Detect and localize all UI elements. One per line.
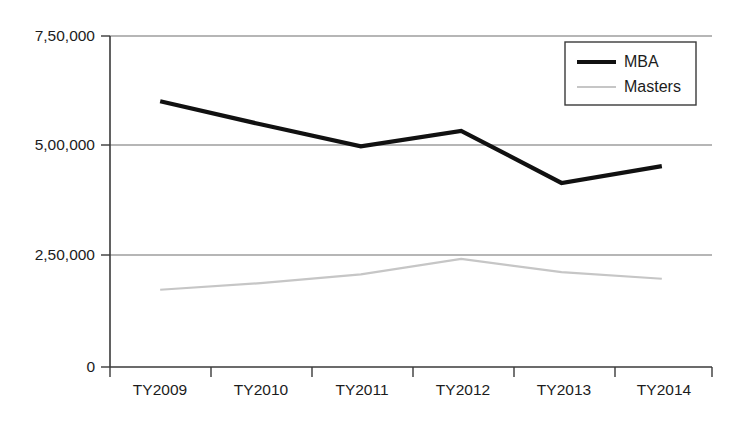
x-tick-label-ty2009: TY2009 xyxy=(133,381,187,398)
chart-page: 7,50,000 5,00,000 2,50,000 0 TY2009 TY20… xyxy=(0,0,734,433)
y-tick-label-0: 0 xyxy=(86,358,95,375)
y-tick-label-500000: 5,00,000 xyxy=(35,136,96,153)
x-tick-label-ty2014: TY2014 xyxy=(637,381,692,398)
x-tick-label-ty2013: TY2013 xyxy=(537,381,591,398)
y-tick-label-750000: 7,50,000 xyxy=(35,27,96,44)
legend: MBA Masters xyxy=(565,42,696,105)
x-tick-label-ty2011: TY2011 xyxy=(335,381,388,398)
line-chart: 7,50,000 5,00,000 2,50,000 0 TY2009 TY20… xyxy=(0,0,734,433)
y-tick-label-250000: 2,50,000 xyxy=(35,246,96,263)
legend-label-masters: Masters xyxy=(624,78,681,95)
x-tick-label-ty2012: TY2012 xyxy=(436,381,490,398)
legend-box xyxy=(565,42,696,105)
legend-label-mba: MBA xyxy=(624,53,659,70)
x-tick-label-ty2010: TY2010 xyxy=(234,381,289,398)
